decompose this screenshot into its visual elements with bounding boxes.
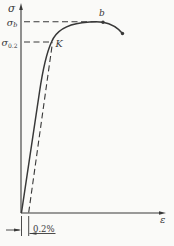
diagram-canvas: σ ε σb σ0.2 b K 0.2% bbox=[0, 0, 174, 246]
y-axis-label: σ bbox=[8, 2, 16, 14]
sigma-02-label: σ0.2 bbox=[1, 37, 17, 49]
dimension-right-arrow-icon bbox=[14, 229, 21, 232]
sigma-b-label: σb bbox=[7, 17, 18, 30]
stress-strain-curve bbox=[22, 22, 123, 213]
point-b-label: b bbox=[99, 8, 105, 18]
offset-dimension-label: 0.2% bbox=[33, 224, 55, 234]
stress-strain-figure: σ ε σb σ0.2 b K 0.2% bbox=[0, 0, 174, 246]
offset-construction-line bbox=[29, 43, 53, 213]
x-axis-label: ε bbox=[160, 214, 165, 225]
point-b-marker bbox=[101, 21, 104, 24]
point-k-label: K bbox=[55, 38, 64, 49]
y-axis-arrow-icon bbox=[19, 3, 23, 10]
fracture-point-marker bbox=[121, 32, 124, 35]
